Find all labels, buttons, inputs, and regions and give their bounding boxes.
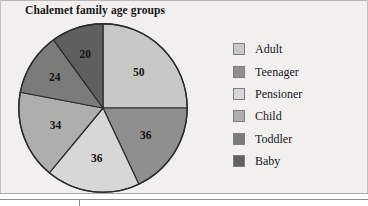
pie-slice-group <box>19 24 187 192</box>
pie-slice-value-pensioner: 36 <box>91 152 103 164</box>
pie-chart-svg: 503636342420 <box>17 22 189 194</box>
legend-swatch-child <box>233 110 245 122</box>
footer-rule <box>0 199 368 200</box>
legend-label: Toddler <box>255 133 292 145</box>
legend-swatch-adult <box>233 43 245 55</box>
legend-item-baby[interactable]: Baby <box>233 150 353 172</box>
legend-swatch-toddler <box>233 133 245 145</box>
page-border-top <box>0 0 368 1</box>
pie-slice-value-baby: 20 <box>80 48 92 60</box>
pie-slice-value-teenager: 36 <box>140 129 152 141</box>
page-border-left <box>0 0 1 194</box>
chart-page: Chalemet family age groups 503636342420 … <box>0 0 368 206</box>
pie-slice-value-child: 34 <box>50 119 62 131</box>
legend-swatch-teenager <box>233 66 245 78</box>
legend-swatch-pensioner <box>233 88 245 100</box>
legend-swatch-baby <box>233 155 245 167</box>
legend-label: Baby <box>255 155 280 167</box>
legend-item-adult[interactable]: Adult <box>233 38 353 60</box>
footer-tick <box>79 199 80 206</box>
legend-item-toddler[interactable]: Toddler <box>233 128 353 150</box>
pie-slice-adult[interactable] <box>103 24 187 108</box>
legend-label: Teenager <box>255 66 299 78</box>
pie-slice-value-adult: 50 <box>133 66 145 78</box>
pie-chart: 503636342420 <box>17 22 189 194</box>
legend-label: Child <box>255 110 282 122</box>
chart-title: Chalemet family age groups <box>25 4 165 16</box>
legend: AdultTeenagerPensionerChildToddlerBaby <box>233 38 353 172</box>
pie-slice-value-toddler: 24 <box>49 71 61 83</box>
legend-item-pensioner[interactable]: Pensioner <box>233 83 353 105</box>
legend-item-teenager[interactable]: Teenager <box>233 60 353 82</box>
footer-strip <box>0 194 368 206</box>
legend-item-child[interactable]: Child <box>233 105 353 127</box>
legend-label: Adult <box>255 43 282 55</box>
legend-label: Pensioner <box>255 88 302 100</box>
